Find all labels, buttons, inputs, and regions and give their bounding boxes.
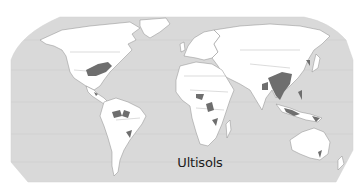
map-caption: Ultisols (160, 155, 240, 170)
island-uk (180, 42, 185, 52)
